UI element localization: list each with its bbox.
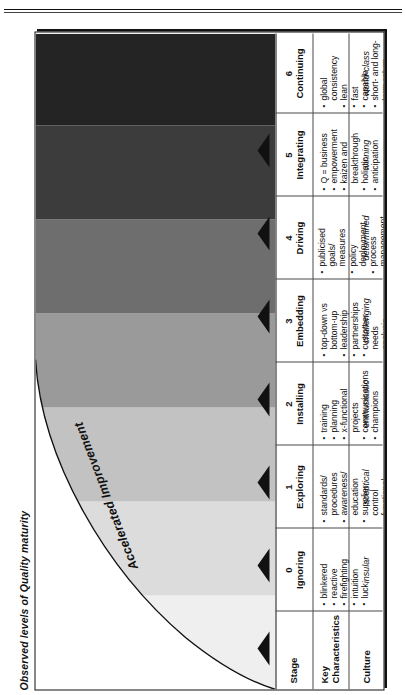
list-item: functional projects xyxy=(379,447,384,523)
rotated-figure-stage: Observed levels of Quality maturity xyxy=(17,26,389,691)
culture-value-4: determined xyxy=(360,197,370,280)
list-item: anticipation xyxy=(369,113,379,191)
list-item: x-functional projects xyxy=(338,362,358,440)
list-item: partnerships xyxy=(349,281,359,357)
stage-name-0: Ignoring xyxy=(293,529,304,612)
stage-header-2: 2 Installing xyxy=(282,363,304,446)
list-item: lean xyxy=(338,32,348,108)
culture-value-1: sceptical xyxy=(360,446,370,529)
stage-arrow-3 xyxy=(257,383,269,417)
list-item: intuition xyxy=(349,530,359,606)
stage-header-1: 1 Exploring xyxy=(282,446,304,529)
list-item: reactive xyxy=(328,530,338,606)
row-label-key-characteristics-line1: Key xyxy=(318,666,329,683)
culture-value-6: world-class xyxy=(360,34,370,114)
stage-characteristics-4: publicised goals/ measures policy deploy… xyxy=(316,198,384,274)
figure-caption: Observed levels of Quality maturity xyxy=(17,511,29,691)
stage-arrow-4 xyxy=(257,300,269,334)
list-item: top-down vs bottom-up xyxy=(318,281,338,357)
stage-number-2: 2 xyxy=(282,363,293,446)
stage-name-3: Embedding xyxy=(293,280,304,363)
list-item: planning xyxy=(328,362,338,440)
row-label-stage: Stage xyxy=(287,658,298,684)
list-item: leadership xyxy=(338,281,348,357)
list-item: training xyxy=(318,362,328,440)
stage-arrow-2 xyxy=(257,466,269,500)
list-item: firefighting xyxy=(338,530,348,606)
stage-number-1: 1 xyxy=(282,446,293,529)
stage-number-5: 5 xyxy=(282,114,293,197)
stage-name-4: Driving xyxy=(293,197,304,280)
culture-value-2: enthusiastic xyxy=(360,363,370,446)
page-rule-top xyxy=(4,9,402,10)
list-item: champions xyxy=(369,362,379,440)
stage-name-5: Integrating xyxy=(293,114,304,197)
quality-maturity-figure: Observed levels of Quality maturity xyxy=(17,26,389,691)
row-label-culture: Culture xyxy=(360,650,371,683)
list-item: standards/ procedures xyxy=(318,447,338,523)
list-item: analysis xyxy=(379,281,384,357)
list-item: fast xyxy=(349,32,359,108)
stage-arrow-0 xyxy=(257,632,269,666)
page-rule-top-secondary xyxy=(4,12,402,13)
stage-number-0: 0 xyxy=(282,529,293,612)
stage-name-1: Exploring xyxy=(293,446,304,529)
list-item: awareness/ education xyxy=(338,447,358,523)
list-item: kaizen and breakthrough xyxy=(338,113,358,191)
stage-arrow-1 xyxy=(257,549,269,583)
culture-value-5: winning xyxy=(360,114,370,197)
stage-arrow-6 xyxy=(257,134,269,168)
list-item: blinkered xyxy=(318,530,328,606)
maturity-table: Stage Key Characteristics Culture 0 Igno… xyxy=(35,34,382,690)
stage-characteristics-3: top-down vs bottom-up leadership partner… xyxy=(318,281,384,357)
stage-header-4: 4 Driving xyxy=(282,197,304,280)
stage-header-5: 5 Integrating xyxy=(282,114,304,197)
culture-value-0: insular xyxy=(360,529,370,612)
stage-header-3: 3 Embedding xyxy=(282,280,304,363)
list-item: empowerment xyxy=(328,113,338,191)
row-label-key-characteristics-line2: Characteristics xyxy=(329,615,340,684)
stage-characteristics-1: standards/ procedures awareness/ educati… xyxy=(318,447,384,523)
stage-header-6: 6 Continuing xyxy=(282,34,304,114)
list-item: short- and long- term return xyxy=(369,32,384,108)
scan-ghost-text xyxy=(55,0,105,8)
list-item: publicised goals/ measures xyxy=(316,198,347,274)
figure-frame: Accelerated Improvement Stage Key Charac… xyxy=(34,32,384,691)
stage-characteristics-6: global consistency lean fast capable sho… xyxy=(318,32,384,108)
stage-number-6: 6 xyxy=(282,34,293,114)
stage-name-6: Continuing xyxy=(293,34,304,114)
culture-value-3: challenging xyxy=(360,280,370,363)
list-item: Q = business xyxy=(318,113,328,191)
stage-header-0: 0 Ignoring xyxy=(282,529,304,612)
stage-number-3: 3 xyxy=(282,280,293,363)
list-item: global consistency xyxy=(318,32,338,108)
stage-number-4: 4 xyxy=(282,197,293,280)
stage-name-2: Installing xyxy=(293,363,304,446)
stage-arrow-5 xyxy=(257,217,269,251)
